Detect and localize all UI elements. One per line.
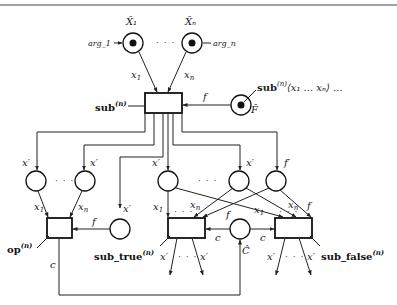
place-x1p-left — [26, 171, 46, 191]
sub-label: sub(n) — [95, 99, 127, 113]
place-xnp-left — [75, 171, 95, 191]
arc-label-x1-true: x1 — [153, 201, 163, 214]
arc-label-xnp-left: x′ — [90, 157, 99, 168]
place-f-hat: F̂ sub(n)⟨x₁ ... xₙ⟩ ... — [231, 80, 343, 115]
op-label: op(n) — [7, 241, 32, 255]
sub-false-label: sub_false(n) — [321, 248, 384, 262]
place-c-label: Ĉ — [242, 245, 250, 256]
place-f-label: F̂ — [250, 104, 259, 115]
arc-label-f-op: f — [91, 216, 98, 227]
arc-label-f-true: f — [225, 209, 232, 220]
ellipsis: · · · — [198, 176, 217, 186]
arc-label-c-op: c — [50, 259, 56, 270]
place-x1p-mid — [158, 171, 178, 191]
arc-label-x1p-mid: x′ — [152, 157, 161, 168]
place-xn-label: X̂ₙ — [184, 16, 196, 27]
arc-label-fp: f′ — [283, 157, 291, 168]
ellipsis: · · · — [156, 38, 175, 48]
ellipsis: · · · — [55, 176, 74, 186]
arc-label-c-right: c — [260, 232, 266, 243]
transition-sub-true — [160, 218, 205, 246]
arc-label-xn-op: xn — [78, 201, 89, 214]
f-annotation: sub(n)⟨x₁ ... xₙ⟩ ... — [257, 80, 343, 93]
arc-label-xn: xn — [184, 69, 195, 82]
place-x1-hat: X̂₁ arg_1 — [88, 16, 143, 53]
arc-label-x1p-false-out: x′ — [267, 251, 276, 262]
arc-label-x1p-left: x′ — [22, 157, 31, 168]
arg-1-label: arg_1 — [88, 39, 111, 48]
transition-op: op(n) — [7, 218, 72, 255]
arc-label-xip: x′ — [123, 203, 132, 214]
arc-label-x1: x1 — [131, 69, 141, 82]
token-icon — [189, 40, 196, 47]
arc-label-x1-false: x1 — [254, 204, 264, 217]
arc-label-f-top: f — [202, 91, 209, 102]
token-icon — [238, 102, 245, 109]
ellipsis: · · · — [178, 252, 197, 262]
token-icon — [130, 40, 137, 47]
ellipsis: · · · — [285, 252, 304, 262]
place-sub-true — [110, 219, 130, 239]
arc-label-f-false: f — [306, 200, 313, 211]
place-x1-label: X̂₁ — [125, 16, 137, 27]
arg-n-label: arg_n — [213, 39, 236, 48]
sub-true-label: sub_true(n) — [94, 248, 154, 262]
transition-sub: sub(n) — [95, 93, 182, 113]
arc-label-c-left: c — [215, 232, 221, 243]
arc-label-xnp-mid: x′ — [246, 157, 255, 168]
place-xn-hat: X̂ₙ arg_n — [182, 16, 236, 53]
arc-label-xnp-false-out: x′ — [307, 251, 316, 262]
arc-label-xnp-true-out: x′ — [200, 251, 209, 262]
arc-label-x1p-true-out: x′ — [160, 251, 169, 262]
petri-net-diagram: X̂₁ arg_1 · · · X̂ₙ arg_n x1 xn sub(n) F… — [0, 0, 397, 305]
